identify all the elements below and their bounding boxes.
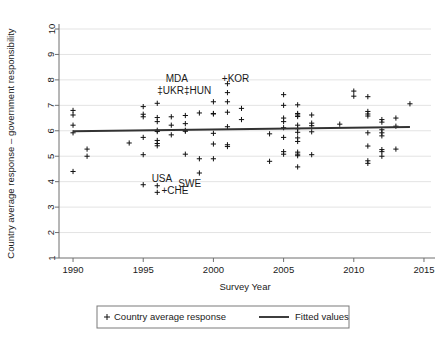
y-tick-label-4: 4	[46, 179, 57, 184]
x-axis-title: Survey Year	[219, 281, 270, 292]
y-tick-label-2: 2	[46, 230, 57, 235]
scatter-plot-figure: 12345678910 199019952000200520102015 MDA…	[0, 0, 445, 341]
annotation-mda: MDA	[166, 73, 189, 84]
y-tick-label-6: 6	[46, 128, 57, 133]
annotation-usa: USA	[152, 173, 173, 184]
y-tick-label-9: 9	[46, 52, 57, 57]
y-tick-label-3: 3	[46, 204, 57, 209]
x-tick-label-2000: 2000	[203, 264, 224, 275]
legend-label-scatter: Country average response	[114, 311, 226, 322]
chart-legend: Country average responseFitted values	[97, 306, 349, 328]
x-tick-label-2005: 2005	[273, 264, 294, 275]
y-axis-title: Country average response – government re…	[5, 28, 16, 258]
x-tick-label-1990: 1990	[62, 264, 83, 275]
y-tick-label-7: 7	[46, 103, 57, 108]
chart-canvas: 12345678910 199019952000200520102015 MDA…	[0, 0, 445, 341]
x-tick-label-2010: 2010	[343, 264, 364, 275]
legend-label-fit: Fitted values	[295, 311, 349, 322]
y-tick-label-10: 10	[46, 24, 57, 35]
y-tick-label-5: 5	[46, 154, 57, 159]
annotation-che: +CHE	[161, 185, 188, 196]
y-tick-label-8: 8	[46, 77, 57, 82]
x-tick-label-2015: 2015	[413, 264, 434, 275]
y-tick-label-1: 1	[46, 255, 57, 260]
annotation-kor: +KOR	[222, 73, 250, 84]
annotation-ukrhun: ‡UKR‡HUN	[157, 85, 211, 96]
x-tick-label-1995: 1995	[133, 264, 154, 275]
